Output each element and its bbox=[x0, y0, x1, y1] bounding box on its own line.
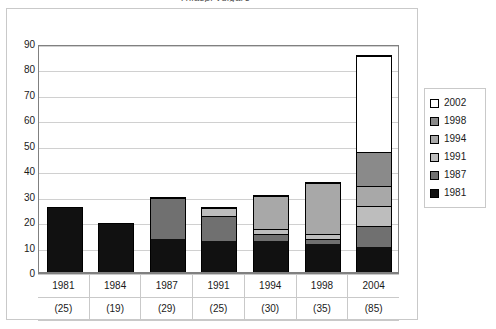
x-axis-year-cell: 1987 bbox=[141, 274, 193, 297]
chart-frame: 9080706050403020100 19811984198719911994… bbox=[6, 8, 418, 320]
x-axis-line bbox=[39, 272, 398, 273]
bar-slot-1994 bbox=[245, 46, 297, 273]
bar-segment-1987-1981[interactable] bbox=[151, 239, 185, 272]
x-axis-count-row: (25)(19)(29)(25)(30)(35)(85) bbox=[38, 297, 399, 320]
x-axis-count-cell: (25) bbox=[193, 297, 245, 320]
x-axis-year-cell: 1991 bbox=[193, 274, 245, 297]
legend-swatch-icon bbox=[430, 171, 439, 180]
legend-item-1987[interactable]: 1987 bbox=[430, 166, 481, 184]
bar-slot-1998 bbox=[297, 46, 349, 273]
x-axis-year-cell: 2004 bbox=[348, 274, 399, 297]
x-axis-count-cell: (30) bbox=[245, 297, 297, 320]
legend-label: 1991 bbox=[444, 152, 466, 162]
x-axis-year-row: 1981198419871991199419982004 bbox=[38, 274, 399, 297]
legend-item-2002[interactable]: 2002 bbox=[430, 94, 481, 112]
bar-slot-1984 bbox=[91, 46, 143, 273]
bar-segment-1981-1981[interactable] bbox=[48, 208, 82, 272]
x-axis-year-cell: 1994 bbox=[245, 274, 297, 297]
bar-slot-1981 bbox=[39, 46, 91, 273]
x-axis-count-cell: (19) bbox=[90, 297, 142, 320]
x-axis-count-cell: (25) bbox=[38, 297, 90, 320]
x-axis-table: 1981198419871991199419982004 (25)(19)(29… bbox=[38, 274, 399, 321]
bar-segment-1991-1991[interactable] bbox=[202, 208, 236, 216]
legend-item-1991[interactable]: 1991 bbox=[430, 148, 481, 166]
plot-area bbox=[38, 45, 399, 274]
chart-root: Thlaspi vulgare 9080706050403020100 1981… bbox=[0, 0, 496, 329]
y-tick-label: 60 bbox=[9, 116, 35, 126]
legend-label: 1998 bbox=[444, 116, 466, 126]
x-axis-year-cell: 1998 bbox=[297, 274, 349, 297]
bar-segment-1998-1994[interactable] bbox=[306, 183, 340, 234]
bar-segment-2004-1994[interactable] bbox=[357, 186, 391, 206]
y-tick-label: 10 bbox=[9, 244, 35, 254]
x-axis-year-cell: 1981 bbox=[38, 274, 90, 297]
x-axis-table-rule-bottom bbox=[38, 320, 399, 321]
legend-item-1981[interactable]: 1981 bbox=[430, 184, 481, 202]
bar-segment-2004-1987[interactable] bbox=[357, 226, 391, 246]
bar-segment-1994-1994[interactable] bbox=[254, 196, 288, 229]
x-axis-year-cell: 1984 bbox=[90, 274, 142, 297]
legend-swatch-icon bbox=[430, 189, 439, 198]
bar-segment-2004-1981[interactable] bbox=[357, 247, 391, 272]
x-axis-count-cell: (29) bbox=[141, 297, 193, 320]
bar-segment-1994-1987[interactable] bbox=[254, 234, 288, 242]
bar-segment-1991-1987[interactable] bbox=[202, 216, 236, 241]
bars-layer bbox=[39, 46, 398, 273]
y-tick-label: 70 bbox=[9, 91, 35, 101]
y-tick-label: 20 bbox=[9, 218, 35, 228]
legend-label: 2002 bbox=[444, 98, 466, 108]
legend-label: 1994 bbox=[444, 134, 466, 144]
legend-label: 1987 bbox=[444, 170, 466, 180]
bar-segment-2004-2002[interactable] bbox=[357, 56, 391, 153]
legend-swatch-icon bbox=[430, 153, 439, 162]
stacked-bar-1998[interactable] bbox=[305, 182, 341, 273]
legend-swatch-icon bbox=[430, 135, 439, 144]
bar-slot-1991 bbox=[194, 46, 246, 273]
legend-item-1998[interactable]: 1998 bbox=[430, 112, 481, 130]
bar-slot-1987 bbox=[142, 46, 194, 273]
y-tick-label: 0 bbox=[9, 269, 35, 279]
legend-item-1994[interactable]: 1994 bbox=[430, 130, 481, 148]
legend-label: 1981 bbox=[444, 188, 466, 198]
stacked-bar-1991[interactable] bbox=[201, 207, 237, 273]
y-axis-labels: 9080706050403020100 bbox=[7, 45, 35, 274]
bar-segment-2004-1991[interactable] bbox=[357, 206, 391, 226]
stacked-bar-2004[interactable] bbox=[356, 55, 392, 273]
chart-legend: 200219981994199119871981 bbox=[424, 88, 486, 208]
bar-segment-1998-1981[interactable] bbox=[306, 244, 340, 272]
y-tick-label: 50 bbox=[9, 142, 35, 152]
bar-segment-1984-1981[interactable] bbox=[99, 224, 133, 272]
bar-segment-1994-1981[interactable] bbox=[254, 241, 288, 272]
x-axis-count-cell: (85) bbox=[348, 297, 399, 320]
legend-swatch-icon bbox=[430, 117, 439, 126]
bar-segment-1991-1981[interactable] bbox=[202, 241, 236, 272]
y-tick-label: 40 bbox=[9, 167, 35, 177]
x-axis-count-cell: (35) bbox=[297, 297, 349, 320]
bar-slot-2004 bbox=[348, 46, 400, 273]
y-tick-label: 30 bbox=[9, 193, 35, 203]
legend-swatch-icon bbox=[430, 99, 439, 108]
bar-segment-1987-1987[interactable] bbox=[151, 198, 185, 239]
chart-title: Thlaspi vulgare bbox=[0, 0, 430, 2]
stacked-bar-1984[interactable] bbox=[98, 223, 134, 273]
stacked-bar-1981[interactable] bbox=[47, 207, 83, 273]
bar-segment-2004-1998[interactable] bbox=[357, 152, 391, 185]
y-tick-label: 80 bbox=[9, 65, 35, 75]
y-tick-label: 90 bbox=[9, 40, 35, 50]
stacked-bar-1987[interactable] bbox=[150, 197, 186, 273]
stacked-bar-1994[interactable] bbox=[253, 195, 289, 273]
